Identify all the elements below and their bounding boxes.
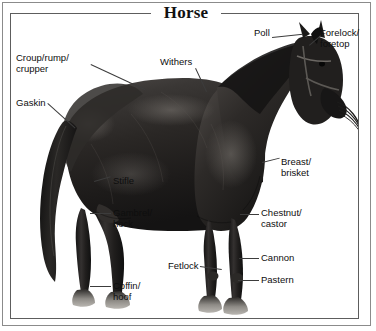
- leader-coffin: [90, 286, 111, 287]
- label-pastern: Pastern: [261, 275, 294, 286]
- label-stifle: Stifle: [113, 176, 134, 187]
- leader-chestnut: [240, 214, 259, 215]
- label-coffin: Coffin/ hoof: [113, 281, 140, 302]
- label-gaskin: Gaskin: [16, 98, 46, 109]
- hoof-front-far: [198, 295, 222, 313]
- label-fetlock: Fetlock: [168, 261, 199, 272]
- figure-inner-border-bottom: [10, 318, 359, 319]
- label-forelock: Forelock/ foretop: [320, 28, 359, 49]
- leader-pastern: [238, 280, 259, 281]
- leader-cannon: [239, 258, 259, 259]
- belly-highlight: [91, 152, 171, 196]
- hoof-front-near: [223, 297, 248, 315]
- front-leg-far: [204, 220, 217, 298]
- label-croup: Croup/rump/ crupper: [16, 53, 69, 74]
- figure-inner-border-right: [358, 13, 359, 319]
- fetlock-joint-far: [208, 272, 219, 281]
- label-withers: Withers: [160, 57, 192, 68]
- front-leg-near: [229, 218, 243, 300]
- horse-ear-left: [299, 22, 310, 38]
- label-chestnut: Chestnut/ castor: [261, 208, 302, 229]
- hind-leg-far: [76, 208, 91, 292]
- label-gambrel: Gambrel/ hock: [113, 208, 152, 229]
- leader-gambrel: [90, 213, 111, 214]
- horse-anatomy-figure: Horse: [0, 0, 376, 331]
- shoulder-highlight: [205, 120, 257, 188]
- label-breast: Breast/ brisket: [281, 157, 311, 178]
- fetlock-joint: [231, 273, 243, 283]
- label-poll: Poll: [254, 28, 270, 39]
- hoof-hind-far: [72, 289, 95, 307]
- label-cannon: Cannon: [261, 253, 294, 264]
- horse-eye: [319, 62, 325, 67]
